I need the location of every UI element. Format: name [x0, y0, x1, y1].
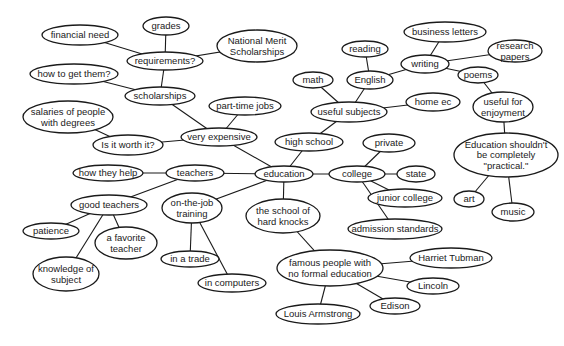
node-label: in a trade	[170, 253, 210, 264]
node-teachers: teachers	[166, 165, 224, 181]
node-label: education	[263, 168, 304, 179]
node-label: financial need	[51, 29, 110, 40]
node-salaries: salaries of peoplewith degrees	[23, 101, 113, 133]
concept-map: educationvery expensivepart-time jobssch…	[0, 0, 564, 346]
node-label: math	[302, 74, 323, 85]
node-label: subject	[51, 274, 81, 285]
node-art: art	[454, 191, 484, 207]
node-label: Lincoln	[418, 280, 448, 291]
node-label: no formal education	[288, 268, 371, 279]
node-label: famous people with	[289, 257, 371, 268]
node-label: hard knocks	[257, 216, 308, 227]
node-label: good teachers	[79, 199, 139, 210]
node-label: grades	[151, 20, 180, 31]
node-label: Harriet Tubman	[418, 252, 483, 263]
node-label: on-the-job	[171, 197, 214, 208]
node-label: reading	[349, 43, 381, 54]
node-label: high school	[285, 136, 333, 147]
node-useful-subjects: useful subjects	[311, 102, 387, 122]
node-label: poems	[464, 69, 493, 80]
node-part-time-jobs: part-time jobs	[209, 97, 281, 115]
node-college: college	[329, 166, 385, 182]
nodes-layer: educationvery expensivepart-time jobssch…	[23, 17, 558, 324]
node-business-letters: business letters	[404, 22, 486, 42]
node-is-it-worth-it: Is it worth it?	[93, 135, 163, 155]
node-label: enjoyment	[481, 107, 525, 118]
node-in-computers: in computers	[198, 274, 266, 292]
node-state: state	[397, 166, 435, 182]
node-label: very expensive	[187, 131, 250, 142]
node-label: training	[176, 208, 207, 219]
node-label: the school of	[256, 205, 310, 216]
node-harriet-tubman: Harriet Tubman	[410, 248, 492, 268]
node-label: knowledge of	[38, 263, 94, 274]
node-math: math	[293, 72, 333, 88]
node-education-shouldnt: Education shouldn'tbe completely"practic…	[454, 133, 558, 177]
node-financial-need: financial need	[42, 25, 118, 45]
node-label: a favorite	[106, 232, 145, 243]
node-on-the-job-training: on-the-jobtraining	[162, 193, 222, 223]
node-private: private	[363, 134, 415, 152]
node-label: patience	[33, 225, 69, 236]
node-label: useful for	[483, 96, 522, 107]
node-label: "practical."	[484, 160, 529, 171]
node-high-school: high school	[275, 133, 343, 151]
node-patience: patience	[23, 223, 79, 239]
node-very-expensive: very expensive	[181, 128, 257, 146]
node-the-school-of-hard-knocks: the school ofhard knocks	[246, 199, 320, 233]
node-lincoln: Lincoln	[407, 278, 459, 294]
node-label: teachers	[177, 167, 214, 178]
node-label: private	[375, 137, 404, 148]
node-poems: poems	[458, 67, 498, 83]
node-label: scholarships	[134, 90, 187, 101]
node-label: how they help	[79, 167, 138, 178]
node-label: college	[342, 168, 372, 179]
node-label: part-time jobs	[216, 100, 274, 111]
node-edison: Edison	[370, 298, 420, 314]
node-in-a-trade: in a trade	[161, 251, 219, 267]
node-label: business letters	[412, 26, 478, 37]
node-label: teacher	[110, 243, 142, 254]
node-label: junior college	[376, 192, 433, 203]
node-label: research	[497, 40, 534, 51]
node-label: writing	[410, 58, 438, 69]
node-a-favorite-teacher: a favoriteteacher	[95, 227, 157, 259]
node-how-they-help: how they help	[73, 165, 143, 181]
node-useful-for-enjoyment: useful forenjoyment	[473, 92, 533, 122]
node-label: requirements?	[135, 55, 196, 66]
node-label: home ec	[415, 96, 452, 107]
node-junior-college: junior college	[368, 189, 442, 207]
node-label: Edison	[380, 300, 409, 311]
node-label: music	[501, 206, 526, 217]
node-label: National Merit	[228, 35, 287, 46]
node-label: Is it worth it?	[101, 139, 154, 150]
node-label: Louis Armstrong	[284, 308, 353, 319]
node-home-ec: home ec	[406, 93, 460, 111]
node-grades: grades	[143, 17, 189, 35]
node-label: Scholarships	[230, 46, 285, 57]
node-national-merit: National MeritScholarships	[217, 30, 297, 62]
node-good-teachers: good teachers	[71, 195, 147, 215]
node-louis-armstrong: Louis Armstrong	[276, 304, 360, 324]
node-label: useful subjects	[318, 106, 381, 117]
node-label: admission standards	[351, 223, 438, 234]
node-label: state	[406, 168, 427, 179]
node-scholarships: scholarships	[125, 87, 195, 105]
node-label: English	[354, 74, 385, 85]
node-english: English	[347, 71, 393, 89]
node-label: salaries of people	[31, 106, 105, 117]
node-writing: writing	[401, 55, 449, 73]
node-label: be completely	[477, 149, 536, 160]
node-label: in computers	[205, 277, 260, 288]
node-admission-standards: admission standards	[348, 219, 442, 239]
node-reading: reading	[342, 41, 388, 57]
node-famous-people: famous people withno formal education	[277, 250, 383, 286]
node-how-to-get-them: how to get them?	[30, 64, 118, 84]
node-knowledge-of-subject: knowledge ofsubject	[33, 257, 99, 291]
node-label: art	[463, 193, 474, 204]
node-label: Education shouldn't	[465, 139, 548, 150]
node-music: music	[492, 203, 534, 221]
node-label: with degrees	[40, 117, 95, 128]
node-education: education	[255, 166, 313, 182]
node-label: how to get them?	[38, 68, 111, 79]
